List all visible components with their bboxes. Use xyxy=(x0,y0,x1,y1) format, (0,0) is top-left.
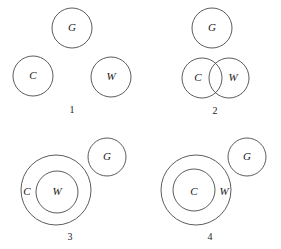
set-label-w: W xyxy=(228,71,238,83)
panel-number-3: 3 xyxy=(68,231,73,242)
set-label-w: W xyxy=(52,185,62,197)
set-label-w: W xyxy=(219,185,229,197)
figure-root: G C W 1 G C W 2 C W G 3 xyxy=(0,0,281,249)
panel-3: C W G 3 xyxy=(21,138,126,242)
panel-number-4: 4 xyxy=(208,231,213,242)
set-label-c: C xyxy=(29,69,37,81)
set-label-g: G xyxy=(103,150,111,162)
panel-1: G C W 1 xyxy=(13,8,131,115)
circle-c xyxy=(182,58,222,98)
set-label-c: C xyxy=(23,185,31,197)
panel-number-1: 1 xyxy=(70,104,75,115)
panel-number-2: 2 xyxy=(213,105,218,116)
set-label-c: C xyxy=(190,185,198,197)
panel-2: G C W 2 xyxy=(182,8,249,116)
set-label-w: W xyxy=(106,70,116,82)
euler-diagram-figure: G C W 1 G C W 2 C W G 3 xyxy=(0,0,281,249)
panel-4: W C G 4 xyxy=(161,138,266,242)
set-label-c: C xyxy=(194,71,202,83)
set-label-g: G xyxy=(68,21,76,33)
set-label-g: G xyxy=(208,21,216,33)
set-label-g: G xyxy=(243,150,251,162)
